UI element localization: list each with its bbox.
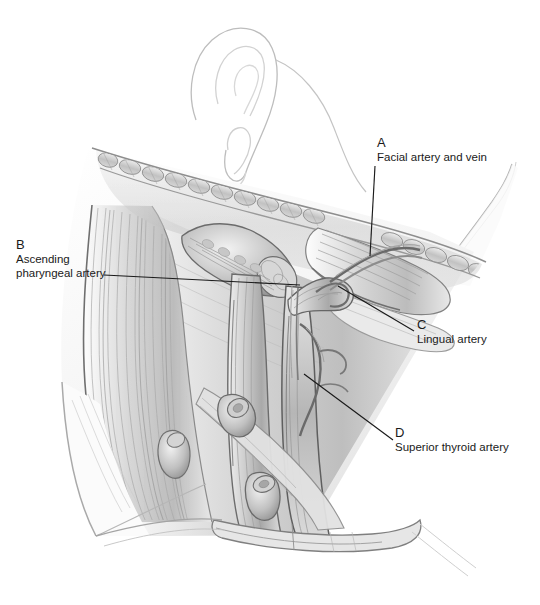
label-d-key: D	[395, 426, 509, 440]
label-c-key: C	[417, 318, 487, 332]
label-a-key: A	[377, 136, 487, 150]
label-d: D Superior thyroid artery	[395, 426, 509, 454]
label-b-text-line2: pharyngeal artery	[16, 267, 106, 279]
label-b-key: B	[16, 238, 106, 252]
label-a-text: Facial artery and vein	[377, 151, 487, 163]
label-c: C Lingual artery	[417, 318, 487, 346]
label-b-text-line1: Ascending	[16, 253, 70, 265]
label-b: B Ascending pharyngeal artery	[16, 238, 106, 280]
label-c-text: Lingual artery	[417, 333, 487, 345]
cut-vessel-stump-left	[158, 430, 190, 478]
anatomical-illustration	[0, 0, 540, 605]
label-a: A Facial artery and vein	[377, 136, 487, 164]
label-d-text: Superior thyroid artery	[395, 441, 509, 453]
